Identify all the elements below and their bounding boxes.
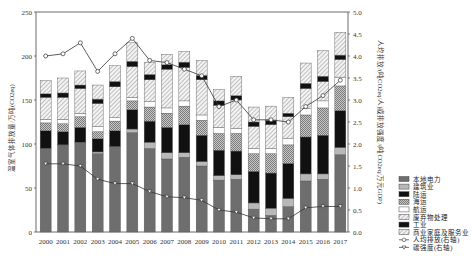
bar-segment <box>179 62 190 67</box>
bar-segment <box>92 154 103 232</box>
y-tick-label-right: 5.0 <box>353 9 362 17</box>
legend-label: 工业 <box>413 220 427 228</box>
bar-segment <box>127 110 138 129</box>
bar-segment <box>92 132 103 139</box>
x-tick-label: 2002 <box>73 238 88 246</box>
bar-2013 <box>266 106 277 232</box>
bar-segment <box>127 43 138 61</box>
bar-segment <box>144 121 155 142</box>
x-tick-label: 2008 <box>177 238 192 246</box>
bar-segment <box>144 62 155 74</box>
bar-segment <box>335 60 346 78</box>
bar-2002 <box>75 71 86 232</box>
bar-2004 <box>110 66 121 232</box>
bar-segment <box>40 81 51 94</box>
bar-2001 <box>58 78 69 232</box>
x-tick-label: 2005 <box>125 238 140 246</box>
bar-segment <box>58 119 69 123</box>
bar-segment <box>248 148 259 153</box>
bar-segment <box>266 154 277 173</box>
y-tick-label-right: 3.5 <box>353 75 362 83</box>
y-tick-label-left: 250 <box>22 9 33 17</box>
bar-segment <box>179 106 190 124</box>
legend-swatch-icon <box>399 215 409 220</box>
bar-segment <box>318 135 329 174</box>
bar-segment <box>127 61 138 66</box>
bar-segment <box>214 180 225 232</box>
bar-segment <box>92 99 103 103</box>
bar-2000 <box>40 81 51 232</box>
bar-segment <box>75 113 86 117</box>
bar-segment <box>231 151 242 175</box>
y-tick-label-right: 2.0 <box>353 141 362 149</box>
bar-segment <box>248 122 259 126</box>
bar-2008 <box>179 52 190 232</box>
y-tick-label-left: 200 <box>22 53 33 61</box>
bar-segment <box>248 209 259 232</box>
bar-segment <box>335 155 346 232</box>
x-tick-label: 2004 <box>108 238 123 246</box>
x-tick-label: 2007 <box>160 238 175 246</box>
bar-segment <box>40 119 51 123</box>
circle-marker-icon <box>269 118 273 122</box>
bar-segment <box>300 115 311 137</box>
bar-segment <box>127 101 138 110</box>
bar-segment <box>40 94 51 98</box>
bar-segment <box>92 85 103 99</box>
bar-segment <box>196 60 207 75</box>
legend-swatch-icon <box>399 177 409 182</box>
y-tick-label-right: 4.5 <box>353 31 362 39</box>
x-tick-label: 2015 <box>299 238 314 246</box>
bar-segment <box>231 76 242 95</box>
x-tick-label: 2016 <box>316 238 331 246</box>
circle-marker-icon <box>234 98 238 102</box>
y-tick-label-right: 3.0 <box>353 97 362 105</box>
x-tick-label: 2011 <box>229 238 243 246</box>
bar-segment <box>92 104 103 127</box>
x-tick-label: 2012 <box>247 238 262 246</box>
bar-segment <box>58 132 69 145</box>
legend-swatch-icon <box>399 207 409 212</box>
bar-segment <box>162 65 173 69</box>
bar-segment <box>75 142 86 232</box>
stacked-bar-chart: 0501001502002500.00.51.01.52.02.53.03.54… <box>0 0 471 256</box>
bar-segment <box>179 153 190 157</box>
circle-marker-icon <box>200 74 204 78</box>
bar-segment <box>162 127 173 153</box>
bar-2007 <box>162 54 173 232</box>
y-tick-label-left: 100 <box>22 141 33 149</box>
x-tick-label: 2006 <box>143 238 158 246</box>
bar-2017 <box>335 32 346 232</box>
x-tick-label: 2000 <box>39 238 54 246</box>
circle-marker-icon <box>61 52 65 56</box>
bar-segment <box>318 108 329 135</box>
bar-segment <box>110 131 121 147</box>
bar-segment <box>40 131 51 149</box>
legend-swatch-icon <box>399 230 409 235</box>
bar-segment <box>335 148 346 155</box>
bar-segment <box>300 137 311 174</box>
bar-segment <box>196 115 207 120</box>
bar-segment <box>335 55 346 59</box>
bar-segment <box>144 74 155 79</box>
y-tick-label-right: 1.0 <box>353 185 362 193</box>
x-tick-label: 2009 <box>195 238 210 246</box>
bar-segment <box>144 80 155 102</box>
circle-marker-icon <box>217 105 221 109</box>
bar-segment <box>110 147 121 232</box>
x-tick-label: 2010 <box>212 238 227 246</box>
bar-segment <box>110 66 121 82</box>
bar-segment <box>231 128 242 133</box>
bar-segment <box>318 76 329 81</box>
bar-segment <box>266 208 277 215</box>
circle-marker-icon <box>78 41 82 45</box>
x-tick-label: 2013 <box>264 238 279 246</box>
bar-segment <box>162 113 173 127</box>
bar-segment <box>214 133 225 150</box>
bar-segment <box>58 93 69 97</box>
bar-segment <box>266 173 277 208</box>
bar-segment <box>127 67 138 98</box>
bar-segment <box>75 71 86 85</box>
bar-segment <box>283 113 294 117</box>
bar-segment <box>196 135 207 161</box>
